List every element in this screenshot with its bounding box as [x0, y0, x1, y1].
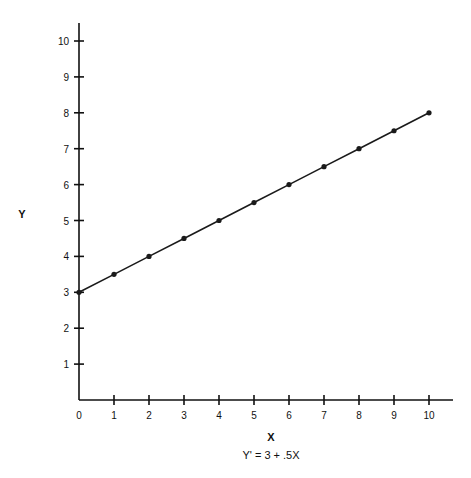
- x-axis-ticks: 012345678910: [76, 395, 435, 421]
- line-chart: 012345678910 12345678910 Y X Y' = 3 + .5…: [0, 0, 471, 478]
- data-point-marker: [321, 164, 326, 169]
- data-point-marker: [181, 236, 186, 241]
- y-tick-label: 8: [63, 108, 69, 119]
- x-tick-label: 8: [356, 410, 362, 421]
- x-tick-label: 7: [321, 410, 327, 421]
- axes: 012345678910 12345678910: [58, 23, 453, 421]
- y-tick-label: 1: [63, 359, 69, 370]
- y-tick-label: 4: [63, 251, 69, 262]
- y-tick-label: 6: [63, 180, 69, 191]
- data-point-marker: [391, 128, 396, 133]
- data-point-marker: [356, 146, 361, 151]
- y-tick-label: 2: [63, 323, 69, 334]
- data-point-marker: [111, 272, 116, 277]
- y-tick-label: 10: [58, 36, 70, 47]
- x-tick-label: 6: [286, 410, 292, 421]
- x-axis-title: X: [267, 431, 275, 443]
- x-tick-label: 4: [216, 410, 222, 421]
- x-tick-label: 2: [146, 410, 152, 421]
- x-tick-label: 10: [423, 410, 435, 421]
- data-point-marker: [76, 290, 81, 295]
- y-tick-label: 3: [63, 287, 69, 298]
- data-point-marker: [426, 110, 431, 115]
- x-tick-label: 3: [181, 410, 187, 421]
- x-tick-label: 1: [111, 410, 117, 421]
- y-tick-label: 7: [63, 144, 69, 155]
- data-series: [76, 110, 431, 295]
- x-tick-label: 0: [76, 410, 82, 421]
- x-tick-label: 9: [391, 410, 397, 421]
- x-tick-label: 5: [251, 410, 257, 421]
- y-axis-ticks: 12345678910: [58, 36, 84, 370]
- y-tick-label: 5: [63, 216, 69, 227]
- y-axis-title: Y: [18, 208, 26, 220]
- data-point-marker: [146, 254, 151, 259]
- equation-caption: Y' = 3 + .5X: [242, 449, 300, 461]
- data-point-marker: [216, 218, 221, 223]
- y-tick-label: 9: [63, 72, 69, 83]
- data-point-marker: [286, 182, 291, 187]
- data-point-marker: [251, 200, 256, 205]
